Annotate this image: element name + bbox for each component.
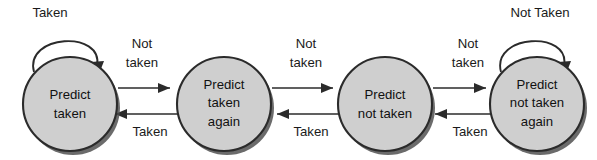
state-label-line2: taken [208, 95, 240, 110]
state-label-line1: Predict [516, 77, 557, 92]
state-label-line2: taken [54, 106, 86, 121]
self-loop-label: Taken [32, 5, 67, 20]
state-label-line1: Predict [49, 87, 90, 102]
arrow-head-right-icon [158, 83, 170, 93]
state-label-line1: Predict [203, 77, 244, 92]
transition-label-line1: Not [132, 36, 153, 51]
state-circle[interactable] [338, 57, 432, 151]
transition-label: Taken [132, 124, 167, 139]
state-predict-taken-again[interactable]: Predict taken again [177, 57, 274, 155]
transition-label-line2: taken [290, 55, 322, 70]
arrow-head-right-icon [321, 83, 333, 93]
transition-label: Taken [293, 124, 328, 139]
state-label-line2: not taken [510, 95, 564, 110]
state-predict-taken[interactable]: Predict taken [23, 57, 120, 155]
arrow-head-left-icon [435, 109, 447, 119]
self-loop-label: Not Taken [510, 5, 569, 20]
transition-forward-not-taken-to-not-taken-again: Not taken [433, 36, 486, 93]
state-label-line3: again [208, 114, 240, 129]
arrow-head-right-icon [474, 83, 486, 93]
state-label-line2: not taken [358, 106, 412, 121]
transition-label: Taken [452, 124, 487, 139]
transition-label-line2: taken [452, 55, 484, 70]
state-diagram: Not taken Not taken Not taken Taken Take… [0, 0, 597, 160]
transition-label-line1: Not [296, 36, 317, 51]
transition-label-line1: Not [458, 36, 479, 51]
transition-backward-not-taken-again-to-not-taken: Taken [435, 109, 495, 139]
state-diagram-canvas: Not taken Not taken Not taken Taken Take… [0, 0, 597, 160]
state-predict-not-taken[interactable]: Predict not taken [338, 57, 435, 155]
arrow-head-left-icon [277, 109, 289, 119]
state-label-line1: Predict [364, 87, 405, 102]
transition-forward-taken-again-to-not-taken: Not taken [272, 36, 333, 93]
state-label-line3: again [521, 114, 553, 129]
transition-backward-not-taken-to-taken-again: Taken [277, 109, 341, 139]
state-predict-not-taken-again[interactable]: Predict not taken again [490, 57, 587, 155]
transition-forward-taken-to-taken-again: Not taken [118, 36, 170, 93]
transition-label-line2: taken [126, 55, 158, 70]
transition-backward-taken-again-to-taken: Taken [115, 109, 180, 139]
state-circle[interactable] [23, 57, 117, 151]
